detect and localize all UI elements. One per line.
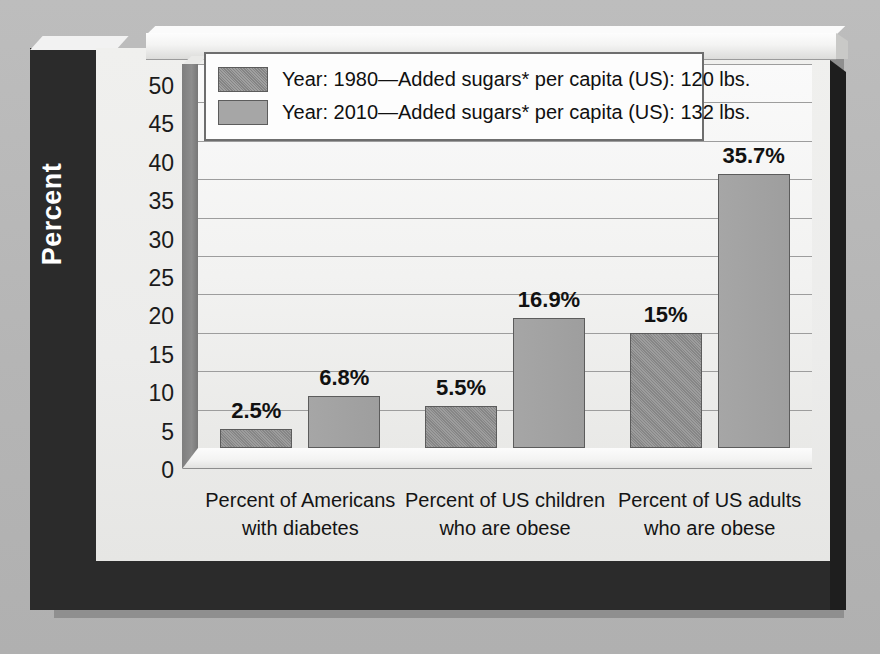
category-label-line: Percent of US children xyxy=(403,486,608,514)
category-label-1: Percent of Americanswith diabetes xyxy=(198,486,403,542)
chart-page: Percent 50454035302520151050 2.5%6.8%5.5… xyxy=(0,0,880,654)
y-tick-label: 50 xyxy=(104,73,174,100)
bar-2010-group-2: 16.9% xyxy=(513,318,585,448)
legend-swatch-2010-icon xyxy=(218,100,268,125)
plot-left-wall xyxy=(182,64,198,468)
legend-label-2010: Year: 2010—Added sugars* per capita (US)… xyxy=(282,101,750,124)
chart-legend: Year: 1980—Added sugars* per capita (US)… xyxy=(204,52,704,141)
bar-value-label: 16.9% xyxy=(518,287,580,313)
y-tick-label: 5 xyxy=(104,418,174,445)
y-tick-label: 20 xyxy=(104,303,174,330)
bar-value-label: 6.8% xyxy=(319,365,369,391)
category-label-line: who are obese xyxy=(403,514,608,542)
y-tick-label: 45 xyxy=(104,111,174,138)
category-label-line: with diabetes xyxy=(198,514,403,542)
bar-value-label: 5.5% xyxy=(436,375,486,401)
bar-1980-group-2: 5.5% xyxy=(425,406,497,448)
plot-floor xyxy=(182,448,812,469)
bar-2010-group-1: 6.8% xyxy=(308,396,380,448)
bar-value-label: 2.5% xyxy=(231,398,281,424)
bar-value-label: 15% xyxy=(644,302,688,328)
category-label-line: who are obese xyxy=(607,514,812,542)
y-tick-label: 40 xyxy=(104,149,174,176)
legend-swatch-1980-icon xyxy=(218,67,268,92)
legend-item-1980: Year: 1980—Added sugars* per capita (US)… xyxy=(218,63,688,96)
bar-1980-group-3: 15% xyxy=(630,333,702,448)
bar-value-label: 35.7% xyxy=(722,143,784,169)
y-tick-label: 15 xyxy=(104,341,174,368)
y-tick-label: 35 xyxy=(104,188,174,215)
y-axis-title: Percent xyxy=(34,144,70,284)
y-tick-label: 0 xyxy=(104,457,174,484)
y-axis-tick-labels: 50454035302520151050 xyxy=(104,78,174,472)
category-label-line: Percent of Americans xyxy=(198,486,403,514)
bar-1980-group-1: 2.5% xyxy=(220,429,292,448)
bar-2010-group-3: 35.7% xyxy=(718,174,790,448)
category-label-line: Percent of US adults xyxy=(607,486,812,514)
category-label-3: Percent of US adultswho are obese xyxy=(607,486,812,542)
x-axis-category-labels: Percent of Americanswith diabetesPercent… xyxy=(198,486,818,548)
top-rail-side-bevel xyxy=(836,33,848,59)
y-tick-label: 30 xyxy=(104,226,174,253)
legend-label-1980: Year: 1980—Added sugars* per capita (US)… xyxy=(282,68,750,91)
y-tick-label: 25 xyxy=(104,265,174,292)
legend-item-2010: Year: 2010—Added sugars* per capita (US)… xyxy=(218,96,688,129)
category-label-2: Percent of US childrenwho are obese xyxy=(403,486,608,542)
y-tick-label: 10 xyxy=(104,380,174,407)
frame-right-bevel xyxy=(830,60,846,610)
